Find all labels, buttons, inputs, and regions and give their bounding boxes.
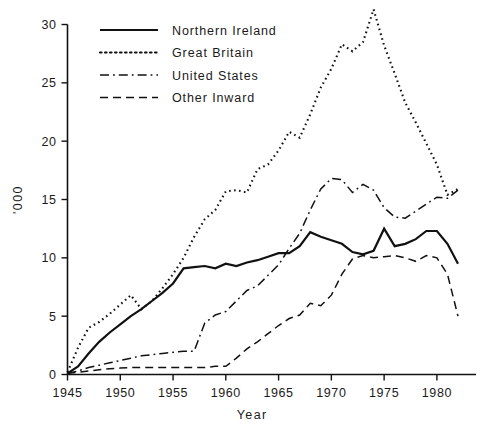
line-chart-container: 0510152025301945195019551960196519701975… [0,0,484,429]
series-line-great-britain [68,9,459,372]
legend-label-great-britain: Great Britain [172,46,254,60]
series-line-united-states [68,179,459,374]
x-tick-label: 1980 [422,386,452,400]
legend-label-united-states: United States [172,69,259,83]
x-tick-label: 1950 [105,386,135,400]
legend-label-other-inward: Other Inward [172,91,255,105]
x-tick-label: 1970 [316,386,346,400]
y-tick-label: 10 [41,251,56,265]
x-tick-label: 1960 [211,386,241,400]
y-tick-label: 30 [41,18,56,32]
x-tick-label: 1945 [52,386,82,400]
migration-line-chart: 0510152025301945195019551960196519701975… [0,0,484,429]
y-axis-title: '000 [11,185,25,214]
x-tick-label: 1965 [263,386,293,400]
series-line-northern-ireland [68,229,459,374]
y-tick-label: 0 [49,368,57,382]
x-tick-label: 1975 [369,386,399,400]
x-axis-title: Year [237,408,268,422]
y-tick-label: 5 [49,310,57,324]
y-tick-label: 15 [41,193,56,207]
x-tick-label: 1955 [158,386,188,400]
y-tick-label: 20 [41,135,56,149]
series-line-other-inward [68,256,459,374]
y-tick-label: 25 [41,76,56,90]
legend-label-northern-ireland: Northern Ireland [172,24,277,38]
